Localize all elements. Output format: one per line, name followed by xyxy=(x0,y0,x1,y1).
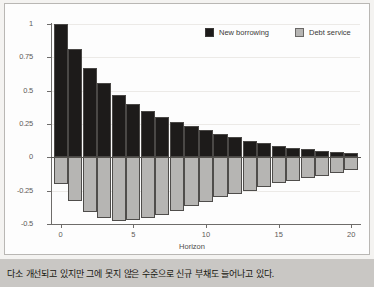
y-tick-label: 0.75 xyxy=(0,52,33,61)
bar-new-borrowing xyxy=(112,95,126,158)
y-tick-label: 0.25 xyxy=(0,119,33,128)
bar-new-borrowing xyxy=(97,83,111,158)
x-tick-label: 0 xyxy=(46,230,76,239)
bar-debt-service xyxy=(112,157,126,220)
bar-new-borrowing xyxy=(257,143,271,157)
zero-baseline xyxy=(51,157,361,158)
legend-item-new-borrowing: New borrowing xyxy=(205,28,269,37)
bar-debt-service xyxy=(257,157,271,186)
bar-new-borrowing xyxy=(228,137,242,157)
black-square-icon xyxy=(205,28,214,37)
bar-debt-service xyxy=(272,157,286,183)
y-tick-label: -0.5 xyxy=(0,219,33,228)
bar-debt-service xyxy=(344,157,358,170)
bar-debt-service xyxy=(126,157,140,220)
bar-new-borrowing xyxy=(286,148,300,157)
bar-debt-service xyxy=(68,157,82,201)
x-tick-label: 10 xyxy=(191,230,221,239)
bar-new-borrowing xyxy=(141,111,155,157)
bar-debt-service xyxy=(155,157,169,214)
bar-debt-service xyxy=(286,157,300,180)
bar-new-borrowing xyxy=(272,146,286,157)
y-tick-label: 1 xyxy=(0,19,33,28)
bar-debt-service xyxy=(228,157,242,194)
y-tick-label: 0 xyxy=(0,152,33,161)
bar-new-borrowing xyxy=(170,122,184,157)
x-tick-label: 20 xyxy=(336,230,366,239)
gray-square-icon xyxy=(295,28,304,37)
bar-new-borrowing xyxy=(126,104,140,157)
bar-new-borrowing xyxy=(184,126,198,157)
chart-legend: New borrowing Debt service xyxy=(205,28,351,37)
bar-debt-service xyxy=(97,157,111,218)
x-tick-label: 5 xyxy=(118,230,148,239)
bar-debt-service xyxy=(330,157,344,173)
chart-figure: 10.750.50.250-0.25-0.5 05101520 New borr… xyxy=(0,0,374,287)
x-axis-label: Horizon xyxy=(5,242,374,251)
bar-new-borrowing xyxy=(83,68,97,157)
caption-text: 다소 개선되고 있지만 그에 못지 않은 수준으로 신규 부채도 늘어나고 있다… xyxy=(7,267,274,280)
bar-new-borrowing xyxy=(68,49,82,157)
bar-debt-service xyxy=(170,157,184,210)
bar-new-borrowing xyxy=(213,134,227,157)
x-axis-line xyxy=(51,224,361,225)
bar-debt-service xyxy=(141,157,155,218)
bar-new-borrowing xyxy=(199,130,213,157)
caption-bar: 다소 개선되고 있지만 그에 못지 않은 수준으로 신규 부채도 늘어나고 있다… xyxy=(0,259,374,287)
bar-new-borrowing xyxy=(155,117,169,157)
chart-panel: 10.750.50.250-0.25-0.5 05101520 New borr… xyxy=(4,3,370,255)
plot-area xyxy=(52,24,360,224)
bar-debt-service xyxy=(83,157,97,212)
bar-debt-service xyxy=(213,157,227,197)
legend-item-debt-service: Debt service xyxy=(295,28,351,37)
bar-debt-service xyxy=(301,157,315,178)
bar-new-borrowing xyxy=(243,141,257,158)
bar-debt-service xyxy=(54,157,68,184)
bar-debt-service xyxy=(243,157,257,190)
x-tick-label: 15 xyxy=(264,230,294,239)
bar-debt-service xyxy=(184,157,198,206)
y-tick-label: 0.5 xyxy=(0,86,33,95)
bar-debt-service xyxy=(315,157,329,176)
legend-label-new-borrowing: New borrowing xyxy=(219,28,269,37)
y-tick-label: -0.25 xyxy=(0,186,33,195)
bar-debt-service xyxy=(199,157,213,202)
bar-new-borrowing xyxy=(54,24,68,157)
legend-label-debt-service: Debt service xyxy=(309,28,351,37)
